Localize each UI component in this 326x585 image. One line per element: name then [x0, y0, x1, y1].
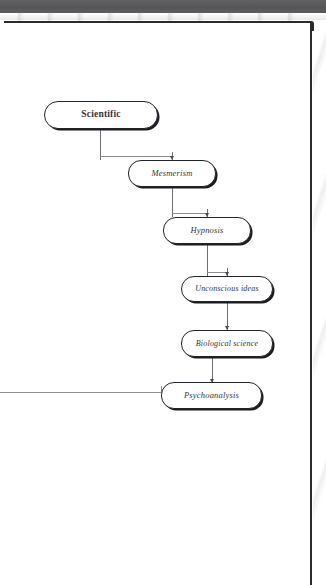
edge-scientific-mesmerism-elbow: [100, 156, 172, 157]
page-border-right: [310, 21, 312, 585]
node-psychoanalysis-label: Psychoanalysis: [184, 391, 239, 400]
node-biological-science[interactable]: Biological science: [181, 330, 273, 357]
node-mesmerism-label: Mesmerism: [152, 169, 193, 178]
node-scientific[interactable]: Scientific: [44, 101, 158, 129]
page-margin-showthrough: [313, 23, 326, 585]
node-hypnosis[interactable]: Hypnosis: [163, 217, 251, 244]
node-mesmerism[interactable]: Mesmerism: [128, 160, 216, 187]
edge-margin-psychoanalysis: [0, 392, 162, 393]
scanned-page: Scientific Mesmerism Hypnosis Unconsciou…: [0, 0, 326, 585]
node-biological-science-label: Biological science: [196, 340, 258, 348]
edge-mesmerism-hypnosis-elbow: [172, 213, 207, 214]
node-psychoanalysis[interactable]: Psychoanalysis: [161, 382, 262, 409]
node-unconscious-ideas-label: Unconscious ideas: [195, 285, 259, 293]
node-unconscious-ideas[interactable]: Unconscious ideas: [181, 276, 273, 302]
scan-showthrough-text: [8, 12, 308, 21]
node-hypnosis-label: Hypnosis: [190, 226, 223, 235]
node-scientific-label: Scientific: [81, 110, 120, 120]
page-border-top: [4, 21, 312, 23]
